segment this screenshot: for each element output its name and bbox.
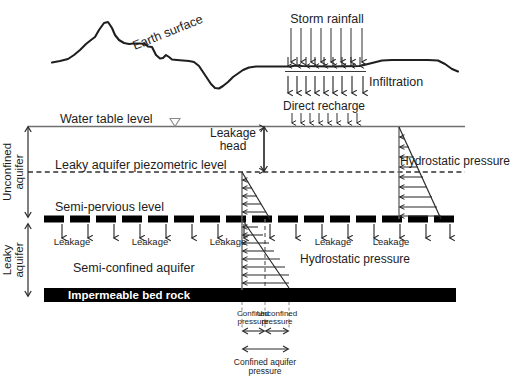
leakage-head-line2: head bbox=[210, 140, 256, 153]
direct-recharge-label: Direct recharge bbox=[283, 100, 365, 113]
leaky-aquifer-side-label: Leaky aquifer bbox=[1, 242, 25, 277]
confined-aquifer-pressure-dimension bbox=[243, 346, 289, 352]
leakage-head-label: Leakage head bbox=[210, 127, 256, 152]
direct-recharge-arrows bbox=[292, 113, 357, 123]
water-table-level-label: Water table level bbox=[60, 113, 153, 126]
hydrostatic-pressure-lower-label: Hydrostatic pressure bbox=[300, 253, 410, 266]
water-table-symbol bbox=[170, 119, 180, 127]
infiltration-arrows bbox=[288, 76, 363, 93]
unconfined-pressure-line2: pressure bbox=[257, 318, 297, 326]
impermeable-bedrock-label: Impermeable bed rock bbox=[68, 289, 190, 301]
hydrostatic-pressure-upper-label: Hydrostatic pressure bbox=[400, 155, 510, 168]
left-pressure-prism bbox=[242, 172, 289, 290]
leaky-aquifer-line2: aquifer bbox=[13, 242, 25, 277]
piezometric-level-label: Leaky aquifer piezometric level bbox=[55, 159, 227, 172]
leakage-label-2: Leakage bbox=[132, 237, 168, 247]
unconfined-aquifer-line1: Unconfined bbox=[1, 143, 13, 201]
leakage-label-1: Leakage bbox=[54, 237, 90, 247]
semi-pervious-level-label: Semi-pervious level bbox=[55, 201, 164, 214]
leaky-aquifer-line1: Leaky bbox=[1, 242, 13, 277]
leakage-label-4: Leakage bbox=[315, 237, 351, 247]
confined-aquifer-pressure-line2: pressure bbox=[234, 367, 296, 376]
leakage-label-5: Leakage bbox=[373, 237, 409, 247]
confined-aquifer-pressure-label: Confined aquifer pressure bbox=[234, 358, 296, 376]
unconfined-pressure-dimension bbox=[266, 328, 289, 334]
leakage-head-line1: Leakage bbox=[210, 127, 256, 140]
rainfall-ground-arrowheads bbox=[288, 57, 360, 66]
leakage-label-3: Leakage bbox=[210, 237, 246, 247]
semi-confined-aquifer-label: Semi-confined aquifer bbox=[73, 262, 195, 275]
infiltration-label: Infiltration bbox=[369, 76, 423, 89]
unconfined-aquifer-side-label: Unconfined aquifer bbox=[1, 143, 25, 201]
unconfined-pressure-label: Unconfined pressure bbox=[257, 310, 297, 327]
storm-rainfall-label: Storm rainfall bbox=[290, 13, 364, 26]
right-pressure-prism bbox=[399, 127, 441, 219]
storm-rainfall-arrows bbox=[291, 28, 362, 62]
unconfined-aquifer-line2: aquifer bbox=[13, 143, 25, 201]
leaky-aquifer-dimension bbox=[25, 224, 31, 297]
confined-pressure-dimension bbox=[243, 328, 265, 334]
